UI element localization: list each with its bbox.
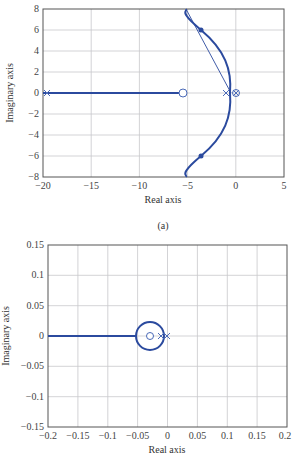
tick-label: 4	[34, 45, 39, 56]
tick-label: 0.05	[189, 430, 207, 441]
chart-a-marker-upper	[199, 28, 204, 33]
tick-label: 0.1	[221, 430, 234, 441]
tick-label: 5	[282, 180, 287, 191]
tick-label: −0.1	[99, 430, 117, 441]
chart-a-caption: (a)	[157, 220, 168, 232]
tick-label: 0.1	[32, 269, 45, 280]
chart-b-yticks: 0.15 0.1 0.05 0 −0.05 −0.1 −0.15	[21, 239, 44, 432]
chart-a-xlabel: Real axis	[145, 194, 182, 205]
tick-label: 6	[34, 24, 39, 35]
tick-label: −0.05	[21, 360, 44, 371]
tick-label: 0	[39, 330, 44, 341]
tick-label: 0.15	[27, 239, 45, 250]
tick-label: 0.05	[27, 300, 45, 311]
chart-b-zero	[147, 333, 154, 340]
chart-b: −0.2 −0.15 −0.1 −0.05 0 0.05 0.1 0.15 0.…	[0, 239, 291, 455]
tick-label: 0.15	[248, 430, 266, 441]
tick-label: 8	[34, 3, 39, 14]
chart-a-ylabel: Imaginary axis	[4, 63, 15, 123]
chart-a-yticks: 8 6 4 2 0 −2 −4 −6 −8	[28, 3, 39, 182]
tick-label: −10	[132, 180, 148, 191]
tick-label: 0.2	[279, 430, 292, 441]
tick-label: −0.15	[21, 421, 44, 432]
chart-a-xticks: −20 −15 −10 −5 0 5	[35, 180, 286, 191]
tick-label: −8	[28, 171, 39, 182]
tick-label: 2	[34, 66, 39, 77]
tick-label: −4	[28, 129, 39, 140]
tick-label: 0	[34, 87, 39, 98]
chart-a-marker-lower	[199, 154, 204, 159]
root-locus-figure: −20 −15 −10 −5 0 5 8 6 4 2 0 −2 −4 −6 −8…	[0, 0, 297, 469]
tick-label: 0	[165, 430, 170, 441]
chart-a: −20 −15 −10 −5 0 5 8 6 4 2 0 −2 −4 −6 −8…	[4, 3, 287, 232]
tick-label: −0.1	[26, 391, 44, 402]
chart-a-zero-1	[179, 89, 187, 97]
tick-label: −5	[182, 180, 193, 191]
tick-label: −15	[83, 180, 99, 191]
tick-label: −6	[28, 150, 39, 161]
chart-b-xticks: −0.2 −0.15 −0.1 −0.05 0 0.05 0.1 0.15 0.…	[39, 430, 291, 441]
tick-label: −2	[28, 108, 39, 119]
chart-b-ylabel: Imaginary axis	[0, 306, 11, 366]
chart-b-xlabel: Real axis	[149, 444, 186, 455]
tick-label: −0.15	[66, 430, 89, 441]
tick-label: 0	[233, 180, 238, 191]
tick-label: −0.05	[126, 430, 149, 441]
